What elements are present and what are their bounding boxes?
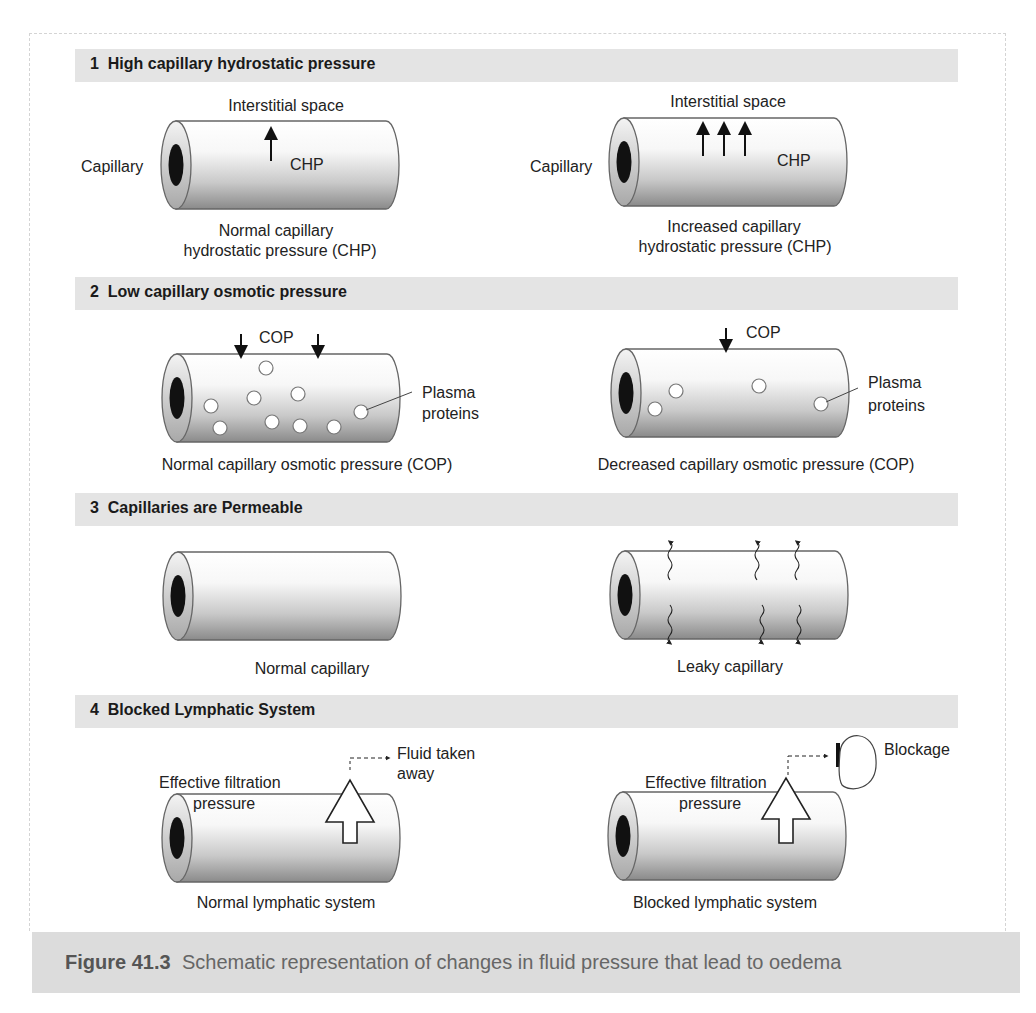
normal-capillary-caption: Normal capillary xyxy=(255,659,370,679)
filtration-pressure-label-left-2: pressure xyxy=(193,794,255,814)
decreased-cop-caption: Decreased capillary osmotic pressure (CO… xyxy=(598,455,915,475)
diagram-graphics xyxy=(0,0,1036,1013)
capillary-normal-chp xyxy=(161,121,399,209)
filtration-pressure-label-right-2: pressure xyxy=(679,794,741,814)
lymphatic-blocked xyxy=(608,736,876,880)
capillary-label-right: Capillary xyxy=(530,157,592,177)
normal-cop-caption: Normal capillary osmotic pressure (COP) xyxy=(162,455,453,475)
figure-caption: Figure 41.3 Schematic representation of … xyxy=(32,932,1020,993)
chp-label-right: CHP xyxy=(777,151,811,171)
capillary-label-left: Capillary xyxy=(81,157,143,177)
plasma-label-right: Plasma xyxy=(868,373,921,393)
increased-chp-caption-2: hydrostatic pressure (CHP) xyxy=(639,237,832,257)
fluid-taken-label-2: away xyxy=(397,764,434,784)
filtration-pressure-label-left-1: Effective filtration xyxy=(159,773,281,793)
interstitial-space-label-left: Interstitial space xyxy=(228,96,344,116)
lymph-node xyxy=(839,736,876,789)
proteins-label-left: proteins xyxy=(422,404,479,424)
plasma-label-left: Plasma xyxy=(422,383,475,403)
filtration-pressure-label-right-1: Effective filtration xyxy=(645,773,767,793)
capillary-normal-cop xyxy=(162,334,412,442)
capillary-leaky xyxy=(610,542,848,643)
blockage-label: Blockage xyxy=(884,740,950,760)
increased-chp-caption-1: Increased capillary xyxy=(667,217,800,237)
chp-label-left: CHP xyxy=(290,155,324,175)
interstitial-space-label-right: Interstitial space xyxy=(670,92,786,112)
proteins-label-right: proteins xyxy=(868,396,925,416)
capillary-decreased-cop xyxy=(611,328,858,437)
cop-label-right: COP xyxy=(746,323,781,343)
normal-chp-caption-2: hydrostatic pressure (CHP) xyxy=(184,241,377,261)
capillary-increased-chp xyxy=(609,118,847,206)
capillary-normal xyxy=(163,552,401,640)
normal-chp-caption-1: Normal capillary xyxy=(219,221,334,241)
leaky-capillary-caption: Leaky capillary xyxy=(677,657,783,677)
fluid-taken-label-1: Fluid taken xyxy=(397,744,475,764)
figure-caption-text: Schematic representation of changes in f… xyxy=(182,951,841,974)
normal-lymphatic-caption: Normal lymphatic system xyxy=(197,893,376,913)
blocked-lymphatic-caption: Blocked lymphatic system xyxy=(633,893,817,913)
cop-label-left: COP xyxy=(259,328,294,348)
figure-number: Figure 41.3 xyxy=(65,951,171,974)
